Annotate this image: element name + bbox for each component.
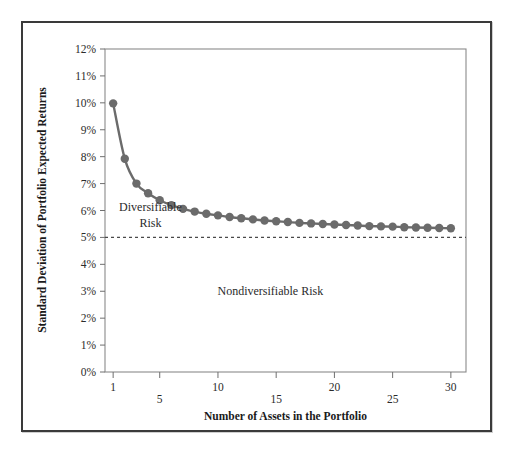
x-tick-label: 10 xyxy=(212,381,224,393)
data-point-marker xyxy=(272,217,280,225)
data-point-marker xyxy=(121,155,129,163)
diversifiable-risk-label-line1: Diversifiable xyxy=(119,200,182,214)
y-axis-ticks: 0%1%2%3%4%5%6%7%8%9%10%11%12% xyxy=(75,43,105,378)
data-point-marker xyxy=(365,222,373,230)
risk-diversification-chart: 0%1%2%3%4%5%6%7%8%9%10%11%12% 1510152025… xyxy=(0,0,514,449)
y-tick-label: 8% xyxy=(81,151,97,163)
data-point-marker xyxy=(284,218,292,226)
y-tick-label: 6% xyxy=(81,205,97,217)
x-tick-label: 30 xyxy=(445,381,457,393)
data-point-marker xyxy=(225,213,233,221)
data-point-marker xyxy=(412,223,420,231)
data-point-marker xyxy=(132,179,140,187)
data-point-marker xyxy=(307,219,315,227)
data-point-marker xyxy=(260,216,268,224)
y-tick-label: 12% xyxy=(75,43,97,55)
data-point-marker xyxy=(202,210,210,218)
y-tick-label: 5% xyxy=(81,231,97,243)
x-tick-label: 20 xyxy=(329,381,341,393)
data-point-marker xyxy=(423,224,431,232)
x-tick-label: 15 xyxy=(270,393,282,405)
data-point-marker xyxy=(354,221,362,229)
y-axis-title: Standard Deviation of Portfolio Expected… xyxy=(36,87,49,333)
y-tick-label: 2% xyxy=(81,312,97,324)
data-point-marker xyxy=(237,214,245,222)
data-point-marker xyxy=(330,220,338,228)
figure-canvas: 0%1%2%3%4%5%6%7%8%9%10%11%12% 1510152025… xyxy=(0,0,514,449)
data-point-marker xyxy=(295,219,303,227)
y-tick-label: 11% xyxy=(75,70,96,82)
y-tick-label: 4% xyxy=(81,258,97,270)
x-tick-label: 5 xyxy=(157,393,163,405)
data-point-marker xyxy=(400,223,408,231)
data-point-marker xyxy=(377,222,385,230)
data-point-marker xyxy=(447,224,455,232)
data-point-marker xyxy=(319,220,327,228)
x-tick-label: 1 xyxy=(110,381,116,393)
data-point-marker xyxy=(388,222,396,230)
y-tick-label: 0% xyxy=(81,366,97,378)
y-tick-label: 3% xyxy=(81,285,97,297)
data-point-marker xyxy=(249,215,257,223)
data-point-marker xyxy=(190,207,198,215)
y-tick-label: 10% xyxy=(75,97,97,109)
y-tick-label: 7% xyxy=(81,178,97,190)
y-tick-label: 9% xyxy=(81,124,97,136)
x-axis-title: Number of Assets in the Portfolio xyxy=(204,410,367,422)
x-tick-label: 25 xyxy=(387,393,399,405)
y-tick-label: 1% xyxy=(81,339,97,351)
nondiversifiable-risk-label: Nondiversifiable Risk xyxy=(218,284,324,298)
diversifiable-risk-label-line2: Risk xyxy=(139,216,161,230)
x-axis-ticks: 151015202530 xyxy=(110,372,457,405)
data-point-marker xyxy=(109,99,117,107)
data-point-marker xyxy=(435,224,443,232)
data-point-marker xyxy=(342,221,350,229)
data-point-marker xyxy=(214,211,222,219)
data-point-marker xyxy=(144,189,152,197)
